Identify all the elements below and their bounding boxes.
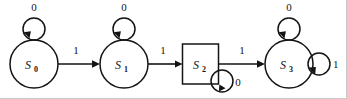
self-loop-circle xyxy=(113,18,135,40)
arrow-head-icon xyxy=(175,60,183,67)
state-subscript: 2 xyxy=(202,65,206,74)
state-subscript: 0 xyxy=(34,65,38,74)
transition-label: 1 xyxy=(239,44,245,56)
self-loop-S0-top: 0 xyxy=(23,1,45,40)
state-label: S xyxy=(193,58,199,72)
state-label: S xyxy=(115,58,121,72)
state-rect[interactable] xyxy=(183,44,219,84)
state-subscript: 3 xyxy=(289,65,293,74)
self-loop-label: 0 xyxy=(31,1,37,13)
state-label: S xyxy=(280,58,286,72)
self-loop-circle xyxy=(278,18,300,40)
state-circle[interactable] xyxy=(100,40,148,88)
arrow-head-icon xyxy=(92,60,100,68)
self-loop-label: 0 xyxy=(121,1,127,13)
state-circle[interactable] xyxy=(10,40,58,88)
self-loop-circle xyxy=(23,18,45,40)
state-circle[interactable] xyxy=(265,40,313,88)
transition-S2-S3: 1 xyxy=(219,44,266,68)
transition-label: 1 xyxy=(73,44,79,56)
transition-S1-S2: 1 xyxy=(148,44,183,68)
arrow-head-icon xyxy=(257,60,265,68)
self-loop-S1-top: 0 xyxy=(113,1,135,40)
self-loop-label: 0 xyxy=(286,1,292,13)
self-loop-S2-bottom-right: 0 xyxy=(211,70,241,92)
state-node-S2[interactable]: S 2 xyxy=(183,44,219,84)
state-node-S1[interactable]: S 1 xyxy=(100,40,148,88)
state-machine-diagram: 1 1 1 0 0 0 xyxy=(0,0,347,99)
arrow-head-icon xyxy=(219,85,226,92)
state-node-S3[interactable]: S 3 xyxy=(265,40,313,88)
self-loop-S3-top: 0 xyxy=(278,1,300,40)
self-loop-label: 0 xyxy=(235,76,241,88)
transition-S0-S1: 1 xyxy=(58,44,100,68)
fsm-canvas: 1 1 1 0 0 0 xyxy=(0,0,347,99)
state-subscript: 1 xyxy=(124,65,128,74)
transition-label: 1 xyxy=(160,44,166,56)
self-loop-label: 1 xyxy=(333,58,339,70)
state-node-S0[interactable]: S 0 xyxy=(10,40,58,88)
state-label: S xyxy=(25,58,31,72)
